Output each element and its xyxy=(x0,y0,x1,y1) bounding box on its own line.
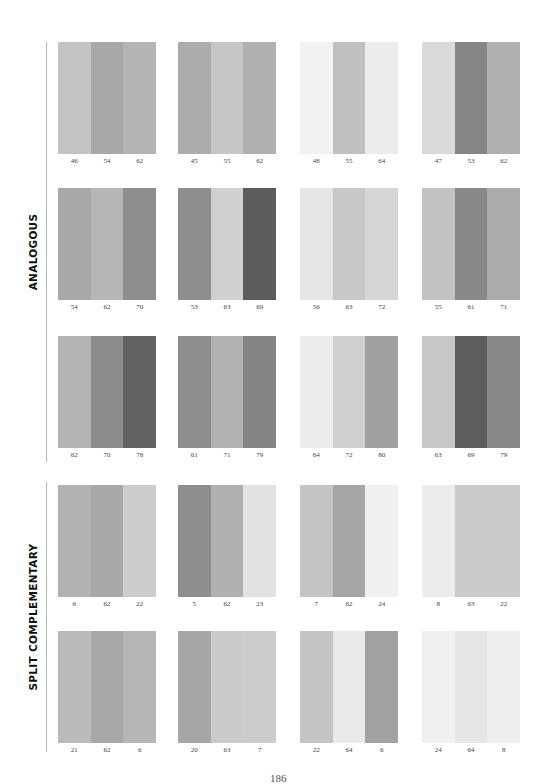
swatch-bar xyxy=(91,631,124,743)
swatch-bar xyxy=(91,336,124,448)
swatch-value: 62 xyxy=(91,600,124,608)
swatch-value: 48 xyxy=(300,157,333,165)
swatch-bar xyxy=(211,336,244,448)
swatch-values: 24648 xyxy=(422,746,520,754)
swatch-bar xyxy=(243,336,276,448)
swatch-bars xyxy=(178,631,276,743)
swatch-bar xyxy=(300,631,333,743)
swatch-values: 56223 xyxy=(178,600,276,608)
swatch-bar xyxy=(91,42,124,154)
swatch-bars xyxy=(58,42,156,154)
color-swatch: 24648 xyxy=(422,631,520,754)
swatch-value: 54 xyxy=(91,157,124,165)
swatch-value: 63 xyxy=(333,303,366,311)
swatch-bar xyxy=(365,485,398,597)
swatch-bar xyxy=(123,485,156,597)
swatch-bars xyxy=(422,42,520,154)
swatch-value: 62 xyxy=(211,600,244,608)
swatch-value: 45 xyxy=(178,157,211,165)
swatch-values: 20637 xyxy=(178,746,276,754)
swatch-bars xyxy=(300,485,398,597)
swatch-value: 5 xyxy=(178,600,211,608)
swatch-bar xyxy=(300,188,333,300)
swatch-bar xyxy=(487,188,520,300)
swatch-value: 72 xyxy=(333,451,366,459)
swatch-bars xyxy=(422,485,520,597)
swatch-bar xyxy=(58,485,91,597)
swatch-value: 21 xyxy=(58,746,91,754)
swatch-bar xyxy=(422,336,455,448)
swatch-value: 55 xyxy=(422,303,455,311)
swatch-values: 485564 xyxy=(300,157,398,165)
swatch-bars xyxy=(178,336,276,448)
swatch-value: 24 xyxy=(422,746,455,754)
swatch-bar xyxy=(422,631,455,743)
swatch-bar xyxy=(365,336,398,448)
swatch-value: 79 xyxy=(487,451,520,459)
swatch-bar xyxy=(333,485,366,597)
swatch-value: 72 xyxy=(365,303,398,311)
swatch-value: 53 xyxy=(178,303,211,311)
swatch-bars xyxy=(178,188,276,300)
swatch-value: 63 xyxy=(211,303,244,311)
swatch-value: 62 xyxy=(243,157,276,165)
swatch-bar xyxy=(178,631,211,743)
swatch-bar xyxy=(300,485,333,597)
swatch-value: 22 xyxy=(123,600,156,608)
swatch-bar xyxy=(123,631,156,743)
swatch-value: 54 xyxy=(58,303,91,311)
swatch-bar xyxy=(487,485,520,597)
color-swatch: 475362 xyxy=(422,42,520,165)
swatch-bar xyxy=(58,336,91,448)
section-divider-split-complementary xyxy=(46,482,47,752)
swatch-bar xyxy=(243,42,276,154)
swatch-values: 475362 xyxy=(422,157,520,165)
swatch-bars xyxy=(300,631,398,743)
swatch-bar xyxy=(211,188,244,300)
section-divider-analogous xyxy=(46,42,47,462)
swatch-bar xyxy=(333,336,366,448)
section-label-split-complementary: SPLIT COMPLEMENTARY xyxy=(26,482,40,752)
swatch-bar xyxy=(178,188,211,300)
swatch-bar xyxy=(123,188,156,300)
swatch-bars xyxy=(300,336,398,448)
swatch-value: 55 xyxy=(333,157,366,165)
swatch-bar xyxy=(422,485,455,597)
swatch-bars xyxy=(300,42,398,154)
swatch-values: 617179 xyxy=(178,451,276,459)
section-label-analogous: ANALOGOUS xyxy=(26,42,40,462)
swatch-bar xyxy=(211,485,244,597)
swatch-value: 8 xyxy=(422,600,455,608)
swatch-value: 71 xyxy=(211,451,244,459)
color-swatch: 627078 xyxy=(58,336,156,459)
swatch-value: 62 xyxy=(333,600,366,608)
swatch-bar xyxy=(211,631,244,743)
swatch-bar xyxy=(243,485,276,597)
swatch-bar xyxy=(365,631,398,743)
swatch-bar xyxy=(211,42,244,154)
swatch-value: 62 xyxy=(91,303,124,311)
swatch-values: 465462 xyxy=(58,157,156,165)
swatch-value: 70 xyxy=(91,451,124,459)
swatch-bars xyxy=(58,485,156,597)
swatch-value: 63 xyxy=(455,600,488,608)
swatch-value: 8 xyxy=(487,746,520,754)
swatch-bar xyxy=(455,188,488,300)
swatch-value: 6 xyxy=(123,746,156,754)
swatch-bars xyxy=(178,42,276,154)
swatch-bars xyxy=(422,631,520,743)
swatch-values: 566372 xyxy=(300,303,398,311)
swatch-values: 536369 xyxy=(178,303,276,311)
swatch-values: 22646 xyxy=(300,746,398,754)
swatch-bar xyxy=(58,631,91,743)
color-swatch: 485564 xyxy=(300,42,398,165)
swatch-value: 24 xyxy=(365,600,398,608)
swatch-bar xyxy=(178,485,211,597)
swatch-value: 61 xyxy=(455,303,488,311)
swatch-value: 46 xyxy=(58,157,91,165)
swatch-value: 64 xyxy=(333,746,366,754)
swatch-bar xyxy=(333,42,366,154)
swatch-bars xyxy=(178,485,276,597)
swatch-bars xyxy=(58,188,156,300)
page-number: 186 xyxy=(270,772,287,784)
